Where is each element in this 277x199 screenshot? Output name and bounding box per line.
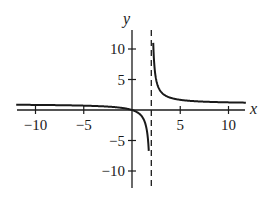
- x-tick-label: −10: [24, 117, 47, 133]
- y-tick-label: 10: [110, 41, 125, 57]
- x-tick-label: −5: [76, 117, 92, 133]
- y-tick-label: −5: [109, 133, 125, 149]
- x-tick-label: 5: [177, 117, 185, 133]
- function-plot: −10−5510 105−5−10 x y: [0, 0, 277, 199]
- y-axis-label: y: [121, 10, 131, 28]
- y-tick-label: 5: [118, 72, 126, 88]
- y-tick-label: −10: [102, 163, 125, 179]
- x-axis-label: x: [249, 100, 257, 117]
- x-tick-label: 10: [221, 117, 236, 133]
- curve-right-branch: [153, 43, 246, 103]
